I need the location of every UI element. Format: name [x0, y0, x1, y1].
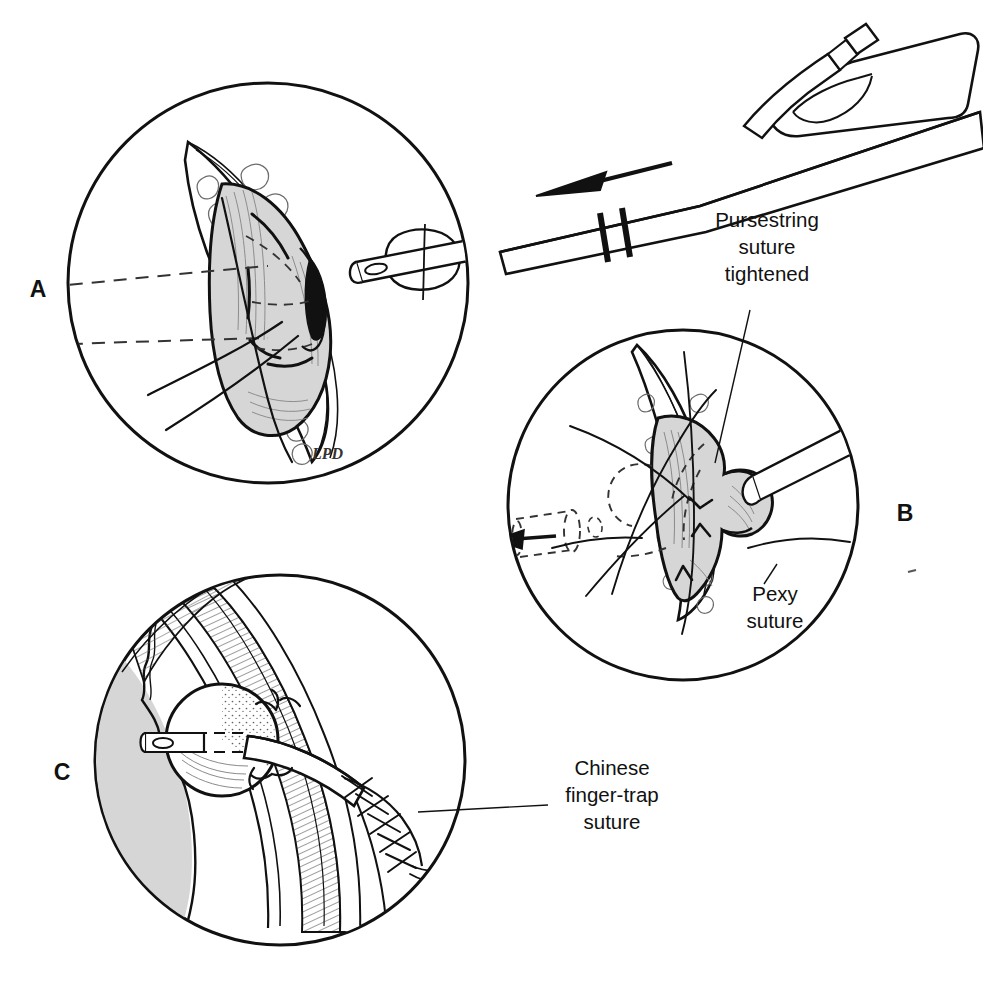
- figure-root: LPD A: [0, 0, 983, 984]
- panel-letter-c: C: [54, 759, 71, 785]
- callout-pexy-line-1: Pexy: [752, 582, 798, 605]
- callout-pexy-line-2: suture: [747, 609, 804, 632]
- catheter-tip-panel-c: [141, 733, 205, 752]
- callout-pursestring-line-1: Pursestring: [715, 208, 819, 231]
- callout-finger-trap-line-2: finger-trap: [565, 783, 658, 806]
- surgical-illustration-canvas: LPD A: [0, 0, 983, 984]
- catheter-tip-round-end: [141, 733, 146, 752]
- callout-finger-trap-line-1: Chinese: [574, 756, 649, 779]
- catheter-tip-eye-hole-panel-c: [153, 738, 173, 748]
- callout-finger-trap-line-3: suture: [584, 810, 641, 833]
- panel-letter-b: B: [897, 500, 914, 526]
- panel-letter-a: A: [30, 276, 47, 302]
- callout-pursestring-line-3: tightened: [725, 262, 809, 285]
- callout-pursestring-line-2: suture: [739, 235, 796, 258]
- artist-signature: LPD: [311, 445, 344, 462]
